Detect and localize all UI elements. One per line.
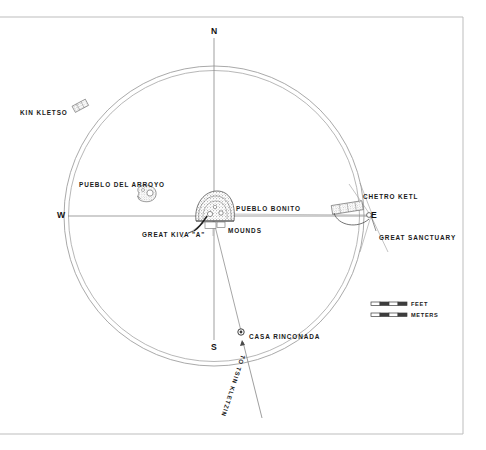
site-label-great-kiva-a: GREAT KIVA "A" xyxy=(142,232,205,238)
site-label-pueblo-bonito: PUEBLO BONITO xyxy=(236,206,301,212)
site-label-great-sanctuary: GREAT SANCTUARY xyxy=(379,235,456,241)
scale-label-feet: FEET xyxy=(411,302,428,308)
scale-bar-group xyxy=(371,302,407,316)
sightline-tsin-kletzin xyxy=(214,222,262,418)
ruin-chetro-ketl xyxy=(331,201,371,225)
ruin-casa-rinconada xyxy=(238,329,244,335)
site-label-casa-rinconada: CASA RINCONADA xyxy=(249,334,320,340)
site-label-pueblo-del-arroyo: PUEBLO DEL ARROYO xyxy=(79,182,165,188)
scale-bar-feet xyxy=(371,302,407,305)
cardinal-north: N xyxy=(211,27,217,36)
cardinal-west: W xyxy=(57,211,65,220)
site-label-mounds: MOUNDS xyxy=(228,228,262,234)
scale-bar-meters xyxy=(371,313,407,316)
scale-label-meters: METERS xyxy=(411,313,439,319)
map-canvas xyxy=(0,0,486,450)
site-label-kin-kletso: KIN KLETSO xyxy=(20,110,68,116)
cardinal-south: S xyxy=(211,343,217,352)
page-frame xyxy=(0,17,463,434)
ruin-pueblo-bonito xyxy=(196,191,235,221)
ruin-mounds xyxy=(205,222,225,229)
site-plan-map: N S W E KIN KLETSO PUEBLO DEL ARROYO PUE… xyxy=(0,0,486,450)
site-label-chetro-ketl: CHETRO KETL xyxy=(363,194,418,200)
cardinal-axes xyxy=(68,38,372,340)
ruin-kin-kletso xyxy=(72,99,89,112)
cardinal-east: E xyxy=(371,211,377,220)
